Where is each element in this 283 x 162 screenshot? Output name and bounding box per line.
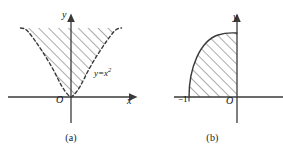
- panel-b: y O −1 (b): [142, 0, 283, 162]
- panel-a-plot: [0, 0, 142, 130]
- panel-b-plot: [142, 0, 283, 130]
- y-axis-label-b: y: [233, 11, 237, 22]
- shaded-region-b: [142, 0, 283, 130]
- x-tick-label-neg1-b: −1: [178, 94, 188, 104]
- caption-b: (b): [142, 132, 283, 143]
- curve-equation-label-a: y=x2: [94, 68, 111, 78]
- origin-label-b: O: [226, 95, 233, 106]
- y-axis-label-a: y: [62, 9, 66, 20]
- curve-equation-base-a: y=x: [94, 68, 108, 78]
- x-axis-label-a: x: [127, 95, 131, 106]
- figure-root: y x O y=x2 (a): [0, 0, 283, 162]
- origin-label-a: O: [56, 94, 63, 105]
- caption-a: (a): [0, 132, 142, 143]
- panel-a: y x O y=x2 (a): [0, 0, 142, 162]
- curve-equation-exponent-a: 2: [108, 66, 111, 73]
